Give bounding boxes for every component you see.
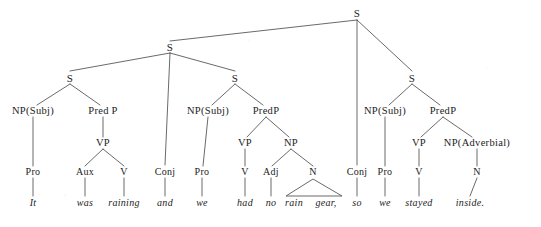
tree-node-w-raining: raining (108, 198, 140, 208)
tree-edge-predp3-vp3 (421, 117, 443, 137)
tree-node-v3: V (415, 167, 423, 177)
tree-node-v2: V (241, 167, 249, 177)
tree-node-root: S (354, 8, 360, 19)
tree-node-n1: N (309, 167, 317, 177)
tree-node-vp2: VP (238, 138, 252, 149)
tree-node-pro2: Pro (195, 167, 210, 177)
tree-node-np-adv: NP(Adverbial) (444, 138, 510, 149)
tree-edge-np-obj-n1 (291, 149, 313, 166)
tree-node-vp3: VP (412, 138, 426, 149)
tree-node-w-it: It (30, 198, 37, 208)
tree-node-w-rain: rain (285, 198, 303, 208)
tree-node-w-stayed: stayed (405, 198, 432, 208)
tree-edge-s1-np1 (37, 84, 70, 105)
tree-node-w-we1: we (196, 198, 208, 208)
tree-edge-root-s-left-top (170, 20, 357, 41)
tree-node-w-inside: inside. (456, 198, 485, 208)
tree-edge-s2-predp2 (235, 84, 263, 105)
tree-node-predp3: PredP (430, 106, 457, 117)
tree-node-np2: NP(Subj) (187, 106, 229, 117)
tree-edge-predp3-np-adv (443, 117, 472, 137)
tree-node-aux1: Aux (76, 167, 94, 177)
tree-edge-s3-predp3 (412, 84, 440, 105)
tree-edge-s2-np2 (212, 84, 235, 105)
triangle-group (286, 179, 342, 196)
tree-edge-s-left-top-s1 (70, 53, 170, 71)
tree-node-pro3: Pro (378, 167, 393, 177)
tree-edge-vp1-v1 (103, 149, 124, 166)
tree-edge-np-obj-adj1 (272, 149, 291, 166)
tree-node-vp1: VP (96, 138, 110, 149)
tree-node-w-was: was (77, 198, 93, 208)
tree-node-w-and: and (157, 198, 173, 208)
tree-node-np1: NP(Subj) (12, 106, 54, 117)
tree-node-np-obj: NP (284, 138, 298, 149)
tree-edge-root-s3 (357, 20, 412, 71)
tree-edge-n2-w-inside (470, 178, 477, 196)
tree-edge-vp1-aux1 (85, 149, 103, 166)
tree-node-s2: S (232, 73, 238, 84)
tree-node-predp2: PredP (253, 106, 280, 117)
tree-node-predp1: Pred P (88, 106, 118, 117)
tree-node-pro1: Pro (26, 167, 41, 177)
tree-node-w-no: no (266, 198, 277, 208)
tree-edge-predp2-vp2 (247, 117, 266, 137)
tree-node-w-we2: we (379, 198, 391, 208)
tree-node-adj1: Adj (263, 167, 279, 177)
tree-node-s1: S (67, 73, 73, 84)
tree-edge-s1-predp1 (70, 84, 100, 105)
tree-edge-s3-np3 (389, 84, 412, 105)
tree-node-w-gear: gear, (315, 198, 336, 208)
tree-node-n2: N (473, 167, 481, 177)
tree-node-conj2: Conj (347, 167, 368, 177)
phrase-triangle-tri-rain-gear (286, 179, 342, 196)
tree-node-s-left-top: S (167, 42, 173, 53)
tree-node-w-had: had (237, 198, 253, 208)
tree-edge-np2-pro2 (203, 117, 208, 166)
syntax-tree-diagram: SSSSSNP(Subj)Pred PNP(Subj)PredPNP(Subj)… (0, 0, 541, 227)
tree-node-conj1: Conj (155, 167, 176, 177)
tree-node-w-so: so (352, 198, 362, 208)
tree-edge-s-left-top-conj1 (165, 53, 170, 165)
tree-node-v1: V (120, 167, 128, 177)
tree-edge-predp2-np-obj (266, 117, 289, 137)
tree-node-np3: NP(Subj) (364, 106, 406, 117)
tree-node-s3: S (409, 73, 415, 84)
tree-edge-s-left-top-s2 (170, 53, 235, 71)
